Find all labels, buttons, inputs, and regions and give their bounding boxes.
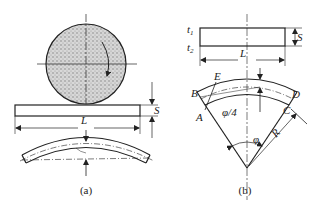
label-t2: t2 <box>187 41 194 55</box>
panel-b: S t1 t2 L B E <box>187 14 307 200</box>
figure-canvas: S L (a) S <box>0 0 320 210</box>
label-l-b: L <box>239 47 246 59</box>
label-s-b: S <box>297 31 303 43</box>
label-quarter-angle: φ/4 <box>222 106 237 118</box>
strip-cross-section <box>200 28 285 46</box>
bent-sector <box>197 68 307 168</box>
bent-strip <box>20 130 154 176</box>
label-angle: φ <box>253 133 259 145</box>
label-b: B <box>191 87 198 99</box>
caption-a: (a) <box>80 184 93 197</box>
length-dimension-a: L <box>15 114 140 134</box>
label-r: R <box>268 126 282 140</box>
label-d: D <box>291 88 300 100</box>
caption-b: (b) <box>239 184 252 197</box>
roller-circle <box>37 14 137 104</box>
thickness-dimension-a: S <box>152 82 160 138</box>
label-s-a: S <box>154 104 160 116</box>
label-a: A <box>195 111 203 123</box>
label-l-a: L <box>80 114 87 126</box>
label-t1: t1 <box>187 23 194 37</box>
panel-a: S L (a) <box>15 14 160 197</box>
label-c: C <box>283 104 291 116</box>
label-e: E <box>213 70 221 82</box>
flat-strip <box>15 105 140 116</box>
